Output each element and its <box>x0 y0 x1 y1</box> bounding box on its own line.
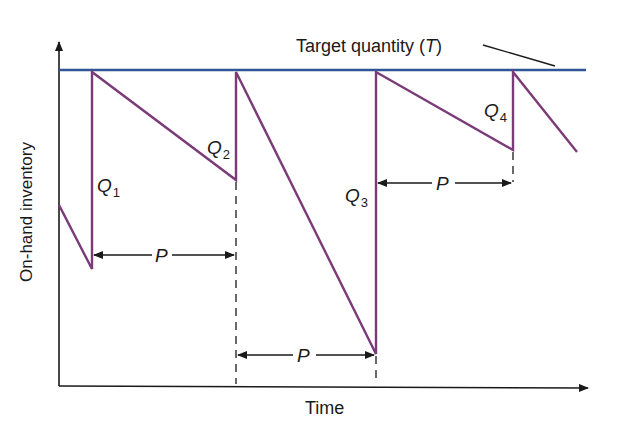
x-axis <box>59 386 588 388</box>
target-leader-line <box>483 45 555 66</box>
order-label-q3: Q3 <box>345 186 368 205</box>
period-label-3: P <box>436 174 449 193</box>
order-label-q1: Q1 <box>97 176 120 195</box>
target-label-text: Target quantity ( <box>296 36 425 56</box>
y-axis-label: On-hand inventory <box>17 142 37 282</box>
order-label-q2: Q2 <box>207 138 230 157</box>
x-axis-label: Time <box>305 399 344 417</box>
period-label-1: P <box>155 246 168 265</box>
target-quantity-label: Target quantity (T) <box>296 37 442 55</box>
target-symbol: T <box>425 36 436 56</box>
order-label-q4: Q4 <box>484 101 507 120</box>
period-label-2: P <box>297 346 310 365</box>
target-label-suffix: ) <box>436 36 442 56</box>
inventory-diagram <box>0 0 620 443</box>
